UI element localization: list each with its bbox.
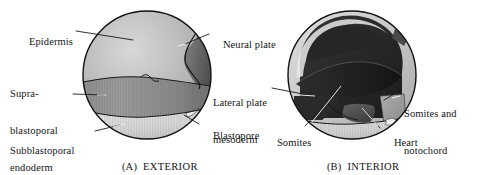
embryo-fate-map-figure: Epidermis Neural plate Supra- blastopora… — [0, 0, 491, 175]
caption-a-text: EXTERIOR — [143, 161, 198, 172]
label-lateral-plate-mesoderm: Lateral plate mesoderm — [213, 73, 267, 171]
label-heart-text: Heart — [394, 137, 418, 148]
caption-b-text: INTERIOR — [347, 161, 399, 172]
label-neural-plate-text: Neural plate — [223, 39, 276, 50]
label-neural-plate: Neural plate — [212, 27, 276, 64]
label-supra-line1: Supra- — [10, 88, 58, 100]
label-subblasto-line1: Subblastoporal — [10, 145, 74, 157]
label-epidermis-text: Epidermis — [29, 36, 73, 47]
label-lateral-line1: Lateral plate — [213, 97, 267, 109]
label-subblastoporal-endoderm: Subblastoporal endoderm — [10, 121, 74, 175]
caption-b: (B) INTERIOR — [315, 150, 399, 175]
label-somites: Somites — [266, 125, 311, 162]
caption-b-prefix: (B) — [327, 161, 342, 172]
label-somnoto-line1: Somites and — [404, 108, 457, 120]
label-lateral-line2: mesoderm — [213, 134, 267, 146]
caption-a-prefix: (A) — [122, 161, 137, 172]
panel-a-exterior-embryo — [80, 6, 214, 146]
label-somites-text: Somites — [277, 137, 312, 148]
label-epidermis: Epidermis — [18, 24, 73, 61]
caption-a: (A) EXTERIOR — [110, 150, 198, 175]
